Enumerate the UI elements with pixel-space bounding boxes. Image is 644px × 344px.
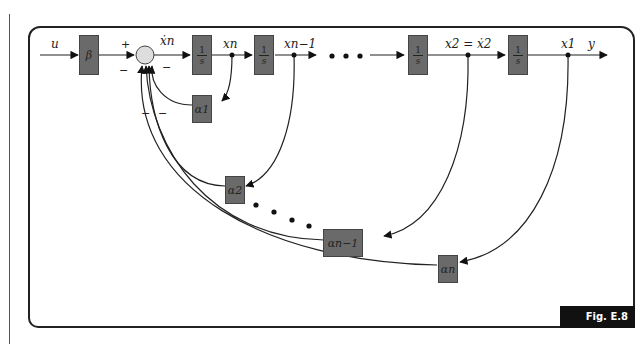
alpha2-block: α2 [225,176,245,204]
label-u: u [51,37,59,51]
label-xn-dot: ẋn [160,34,175,48]
integrator-num: 1 [513,45,523,56]
integrator-den: s [516,56,521,66]
integrator-den: s [200,56,205,66]
sign-plus: + [121,38,130,51]
gain-label: β [86,49,92,62]
label-y: y [588,37,595,51]
sign-minus-4: − [158,107,167,120]
integrator-num: 1 [413,45,423,56]
sign-minus-3: − [141,107,150,120]
alpha-n-label: αn [441,263,456,276]
summing-junction [136,46,154,64]
integrator-den: s [262,56,267,66]
integrator-block-2: 1 s [254,35,274,75]
sign-minus-2: − [162,61,171,74]
sign-minus-1: − [119,64,128,77]
alpha2-label: α2 [228,184,242,197]
alpha1-block: α1 [192,95,212,123]
integrator-block-1: 1 s [192,35,212,75]
gain-block-beta: β [79,35,99,75]
integrator-num: 1 [197,45,207,56]
label-x2: x2 = ẋ2 [445,37,492,51]
label-xn: xn [223,37,238,51]
alpha-n-1-block: αn−1 [323,229,363,257]
figure-tag: Fig. E.8 [560,306,635,328]
label-xn-1: xn−1 [284,37,316,51]
integrator-den: s [416,56,421,66]
alpha-n-1-label: αn−1 [328,237,359,250]
label-x1: x1 [561,37,575,51]
integrator-block-3: 1 s [408,35,428,75]
alpha-n-block: αn [438,255,458,283]
integrator-num: 1 [259,45,269,56]
integrator-block-4: 1 s [508,35,528,75]
alpha1-label: α1 [195,103,209,116]
